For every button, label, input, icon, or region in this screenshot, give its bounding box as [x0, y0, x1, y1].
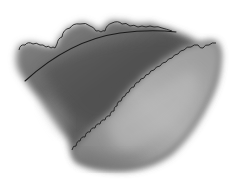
- cloud-front-illustration: [0, 0, 238, 183]
